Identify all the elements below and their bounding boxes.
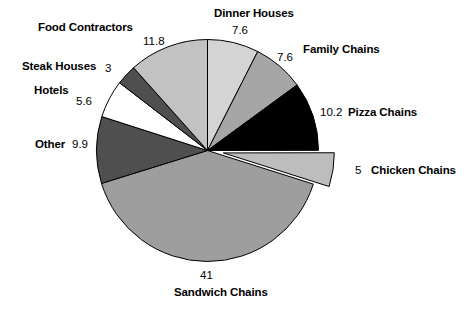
slice-value-hotels: 5.6 — [76, 96, 92, 108]
pie-chart-canvas — [0, 0, 473, 309]
slice-value-chicken-chains: 5 — [355, 165, 361, 177]
slice-value-food-contractors: 11.8 — [143, 36, 165, 48]
slice-label-other: Other — [35, 139, 65, 151]
slice-label-family-chains: Family Chains — [303, 44, 380, 56]
slice-value-pizza-chains: 10.2 — [320, 107, 342, 119]
slice-label-hotels: Hotels — [34, 85, 69, 97]
pie-slice-group — [97, 40, 335, 262]
slice-label-steak-houses: Steak Houses — [22, 61, 96, 73]
slice-value-sandwich-chains: 41 — [200, 270, 213, 282]
slice-value-dinner-houses: 7.6 — [232, 25, 248, 37]
slice-value-family-chains: 7.6 — [277, 52, 293, 64]
pie-chart: Dinner Houses 7.6 Family Chains 7.6 Pizz… — [0, 0, 473, 309]
slice-value-steak-houses: 3 — [105, 63, 111, 75]
slice-label-food-contractors: Food Contractors — [38, 22, 133, 34]
slice-label-dinner-houses: Dinner Houses — [214, 8, 294, 20]
slice-label-chicken-chains: Chicken Chains — [371, 165, 456, 177]
slice-value-other: 9.9 — [72, 139, 88, 151]
slice-label-pizza-chains: Pizza Chains — [348, 107, 417, 119]
slice-label-sandwich-chains: Sandwich Chains — [174, 287, 268, 299]
